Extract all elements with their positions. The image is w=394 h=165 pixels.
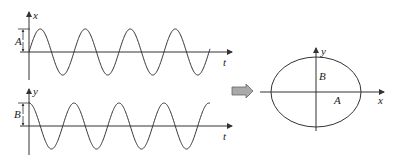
semi-minor-label: B (319, 70, 326, 82)
amplitude-a-label: A (14, 35, 22, 47)
right-arrow-icon (232, 84, 253, 98)
top-sine-plot: x t A (14, 9, 232, 80)
bottom-vertical-axis-label: y (32, 85, 38, 97)
bottom-time-axis-label: t (223, 130, 227, 142)
amplitude-b-label: B (14, 108, 21, 120)
bottom-cosine-plot: y t B (14, 85, 232, 155)
semi-major-label: A (333, 94, 341, 106)
ellipse-y-axis-label: y (320, 45, 326, 57)
top-time-axis-label: t (223, 56, 227, 68)
ellipse-x-axis-label: x (377, 94, 383, 106)
lissajous-diagram: x t A y t B y x B A (0, 0, 394, 165)
ellipse-plot: y x B A (260, 45, 384, 131)
top-vertical-axis-label: x (32, 9, 38, 21)
